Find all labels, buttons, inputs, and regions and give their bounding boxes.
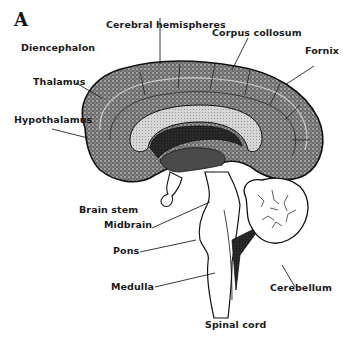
label-corpus-collosum: Corpus collosum bbox=[212, 27, 302, 38]
label-brain-stem: Brain stem bbox=[79, 204, 138, 215]
label-cerebral-hemispheres: Cerebral hemispheres bbox=[106, 19, 226, 30]
brain-diagram: A Cerebral hemispheres Corpus collosum F… bbox=[0, 0, 349, 347]
label-cerebellum: Cerebellum bbox=[270, 282, 332, 293]
label-midbrain: Midbrain bbox=[104, 219, 152, 230]
label-thalamus: Thalamus bbox=[33, 76, 85, 87]
hypothalamus-shape bbox=[161, 172, 182, 206]
label-fornix: Fornix bbox=[305, 45, 339, 56]
panel-label: A bbox=[14, 9, 28, 30]
label-pons: Pons bbox=[113, 245, 139, 256]
label-medulla: Medulla bbox=[111, 281, 154, 292]
label-hypothalamus: Hypothalamus bbox=[14, 114, 92, 125]
label-spinal-cord: Spinal cord bbox=[205, 319, 266, 330]
label-diencephalon: Diencephalon bbox=[21, 42, 95, 53]
